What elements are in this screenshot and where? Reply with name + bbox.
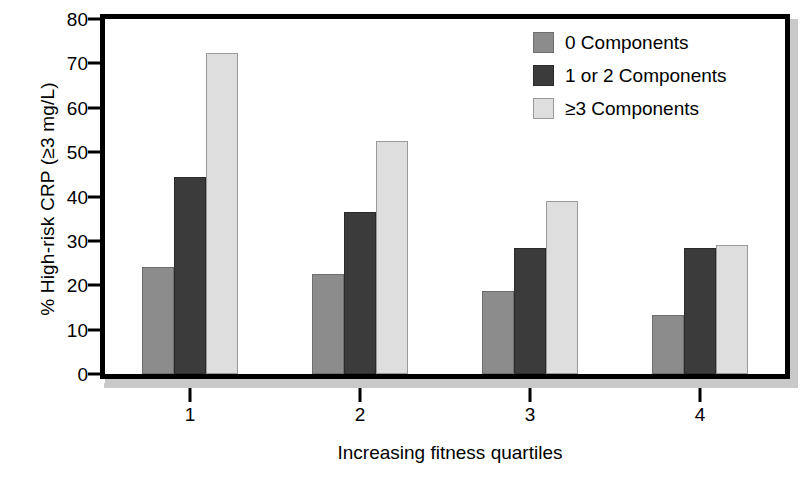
y-tick-label: 0 bbox=[42, 365, 88, 384]
x-tick-label: 1 bbox=[160, 404, 220, 426]
x-tick-mark bbox=[699, 388, 702, 402]
y-tick-label: 20 bbox=[42, 276, 88, 295]
x-tick-mark bbox=[189, 388, 192, 402]
bar bbox=[206, 53, 238, 374]
legend-item: 1 or 2 Components bbox=[533, 59, 727, 92]
bar bbox=[376, 141, 408, 374]
bar bbox=[142, 267, 174, 374]
bar bbox=[514, 248, 546, 374]
y-tick-label: 60 bbox=[42, 98, 88, 117]
y-axis-tick-labels: 01020304050607080 bbox=[36, 0, 88, 480]
x-axis-label: Increasing fitness quartiles bbox=[100, 442, 800, 464]
y-tick-mark bbox=[88, 151, 100, 154]
x-tick-mark bbox=[359, 388, 362, 402]
bar bbox=[546, 201, 578, 374]
bar bbox=[482, 291, 514, 374]
bar bbox=[684, 248, 716, 374]
y-tick-mark bbox=[88, 106, 100, 109]
y-tick-label: 50 bbox=[42, 143, 88, 162]
legend-swatch-icon bbox=[533, 98, 554, 119]
x-axis-line bbox=[100, 374, 790, 379]
y-tick-mark bbox=[88, 373, 100, 376]
y-tick-label: 30 bbox=[42, 231, 88, 250]
x-tick-mark bbox=[529, 388, 532, 402]
y-tick-mark bbox=[88, 62, 100, 65]
y-tick-label: 10 bbox=[42, 320, 88, 339]
y-tick-label: 80 bbox=[42, 10, 88, 29]
legend-label: ≥3 Components bbox=[565, 98, 699, 120]
legend: 0 Components1 or 2 Components≥3 Componen… bbox=[533, 26, 727, 125]
legend-item: ≥3 Components bbox=[533, 92, 727, 125]
legend-swatch-icon bbox=[533, 65, 554, 86]
y-tick-label: 70 bbox=[42, 54, 88, 73]
x-tick-label: 2 bbox=[330, 404, 390, 426]
bar bbox=[652, 315, 684, 374]
x-tick-label: 4 bbox=[670, 404, 730, 426]
y-tick-mark bbox=[88, 18, 100, 21]
legend-label: 1 or 2 Components bbox=[565, 65, 727, 87]
bar bbox=[174, 177, 206, 374]
bar bbox=[344, 212, 376, 374]
legend-item: 0 Components bbox=[533, 26, 727, 59]
legend-swatch-icon bbox=[533, 32, 554, 53]
y-tick-label: 40 bbox=[42, 187, 88, 206]
y-tick-mark bbox=[88, 284, 100, 287]
x-axis-shadow bbox=[104, 383, 798, 388]
y-tick-mark bbox=[88, 195, 100, 198]
y-tick-mark bbox=[88, 239, 100, 242]
x-tick-label: 3 bbox=[500, 404, 560, 426]
bar bbox=[716, 245, 748, 374]
bar-chart-figure: % High-risk CRP (≥3 mg/L) 01020304050607… bbox=[0, 0, 807, 480]
y-tick-mark bbox=[88, 328, 100, 331]
bar bbox=[312, 274, 344, 374]
legend-label: 0 Components bbox=[565, 32, 689, 54]
